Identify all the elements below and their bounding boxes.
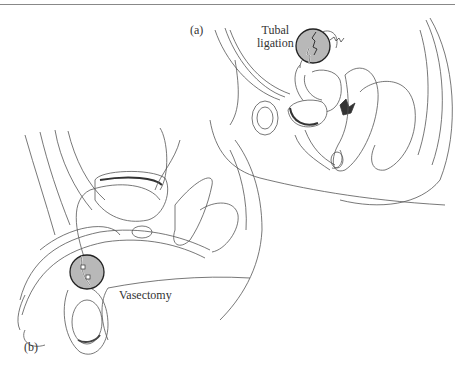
vasectomy-callout: Vasectomy — [119, 289, 172, 302]
tubal-ligation-highlight — [296, 29, 344, 64]
tubal-ligation-callout: Tubal ligation — [257, 24, 294, 50]
male-pelvis-drawing — [18, 128, 262, 354]
panel-a-label: (a) — [190, 24, 203, 37]
panel-b-label: (b) — [24, 341, 38, 354]
anatomy-illustration — [0, 0, 469, 369]
tubal-ligation-line2: ligation — [257, 37, 294, 50]
female-pelvis-drawing — [210, 18, 452, 205]
vasectomy-highlight — [70, 255, 104, 289]
